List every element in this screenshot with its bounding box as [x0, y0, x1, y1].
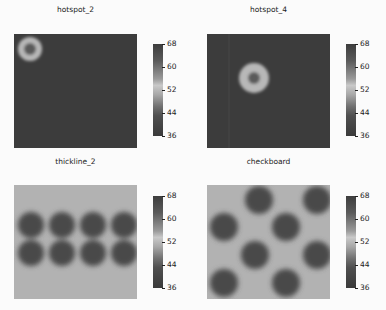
colorbar-tick: 44	[163, 109, 177, 117]
colorbar-tick: 44	[356, 261, 370, 269]
colorbar-tick: 52	[356, 86, 370, 94]
colorbar-tick: 60	[356, 215, 370, 223]
colorbar-tick: 36	[356, 284, 370, 292]
colorbar-tick: 52	[163, 86, 177, 94]
heatmap-plot	[207, 34, 330, 148]
colorbar-tick: 68	[163, 40, 177, 48]
heatmap-plot	[14, 34, 137, 148]
heatmap-panel-thickline-2: thickline_2 68 60 52 44 36	[0, 155, 193, 310]
colorbar-tick: 36	[356, 132, 370, 140]
colorbar-tick: 68	[356, 192, 370, 200]
colorbar-tick: 68	[356, 40, 370, 48]
heatmap-panel-checkboard: checkboard 68 60 52 44 36	[193, 155, 386, 310]
heatmap-plot	[207, 185, 330, 299]
colorbar-tick: 52	[356, 238, 370, 246]
heatmap-plot	[14, 185, 137, 299]
colorbar-tick: 60	[163, 63, 177, 71]
colorbar-tick: 44	[356, 109, 370, 117]
colorbar-tick: 36	[163, 132, 177, 140]
colorbar-tick: 60	[356, 63, 370, 71]
plot-title: thickline_2	[14, 157, 137, 166]
plot-title: checkboard	[207, 157, 330, 166]
colorbar-tick: 52	[163, 238, 177, 246]
plot-title: hotspot_2	[14, 5, 137, 14]
colorbar-tick: 68	[163, 192, 177, 200]
colorbar-tick: 44	[163, 261, 177, 269]
plot-title: hotspot_4	[207, 5, 330, 14]
heatmap-panel-hotspot-2: hotspot_2 68 60 52 44 36	[0, 0, 193, 155]
heatmap-panel-hotspot-4: hotspot_4 68 60 52 44 36	[193, 0, 386, 155]
colorbar-tick: 60	[163, 215, 177, 223]
colorbar-tick: 36	[163, 284, 177, 292]
